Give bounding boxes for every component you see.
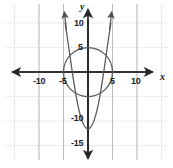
y-tick-label-10: 10 <box>74 19 84 28</box>
x-tick-label-neg5: -5 <box>59 77 67 86</box>
x-tick-label-5: 5 <box>110 77 115 86</box>
y-tick-label-5: 5 <box>78 43 83 52</box>
x-tick-label-10: 10 <box>131 77 141 86</box>
y-axis-label: y <box>80 2 84 12</box>
coordinate-plane-graph: -10 -5 5 10 10 5 -10 -15 x y <box>0 0 173 168</box>
x-axis-label: x <box>160 72 165 82</box>
y-tick-label-neg10: -10 <box>71 114 83 123</box>
y-tick-label-neg15: -15 <box>71 139 83 148</box>
grid-lines <box>6 4 168 160</box>
graph-canvas <box>0 0 173 168</box>
x-tick-label-neg10: -10 <box>33 77 45 86</box>
